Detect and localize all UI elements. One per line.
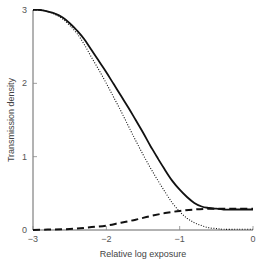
y-tick-label: 0 xyxy=(22,225,27,235)
x-tick-label: −3 xyxy=(28,234,38,244)
y-axis-label: Transmission density xyxy=(6,77,16,162)
characteristic-curve-chart: −3−2−100123 Relative log exposure Transm… xyxy=(0,0,260,266)
series-dashed-line xyxy=(33,209,253,230)
series-solid-line xyxy=(33,10,253,210)
y-tick-label: 1 xyxy=(22,152,27,162)
x-axis-label: Relative log exposure xyxy=(100,249,187,259)
series-dotted-line xyxy=(33,10,253,229)
y-tick-label: 2 xyxy=(22,78,27,88)
plot-series xyxy=(33,10,253,230)
x-tick-label: 0 xyxy=(250,234,255,244)
x-tick-label: −2 xyxy=(101,234,111,244)
y-tick-label: 3 xyxy=(22,5,27,15)
x-tick-label: −1 xyxy=(175,234,185,244)
